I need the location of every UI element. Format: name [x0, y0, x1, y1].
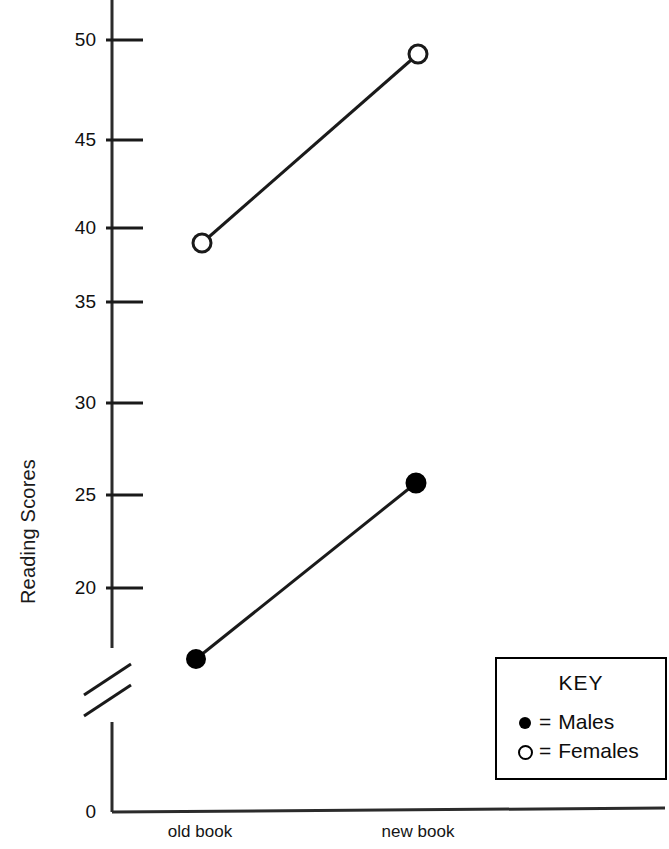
data-point-females-old-book [193, 234, 211, 252]
y-tick-label-20: 20 [38, 577, 96, 599]
legend-equals-females: = [539, 739, 551, 763]
series-females-line [202, 54, 418, 243]
legend-title: KEY [497, 671, 665, 695]
data-point-females-new-book [409, 45, 427, 63]
x-axis-line [112, 808, 665, 812]
series-males [187, 474, 426, 669]
y-axis-origin-label: 0 [38, 801, 96, 823]
legend-label-females: Females [558, 739, 639, 763]
y-tick-label-35: 35 [38, 291, 96, 313]
reading-scores-line-chart: Reading Scores 50 45 40 35 30 25 20 0 ol… [0, 0, 669, 849]
legend-entry-males: = Males [515, 710, 614, 734]
legend-key-box: KEY = Males = Females [495, 657, 667, 780]
axis-break-icon [84, 664, 131, 716]
legend-entry-females: = Females [515, 739, 639, 763]
x-axis-label-old-book: old book [130, 822, 270, 842]
y-tick-label-30: 30 [38, 392, 96, 414]
y-tick-label-45: 45 [38, 129, 96, 151]
filled-circle-icon [515, 712, 535, 732]
data-point-males-old-book [187, 650, 205, 668]
y-tick-label-40: 40 [38, 217, 96, 239]
data-point-males-new-book [407, 474, 426, 493]
series-males-line [196, 483, 416, 659]
y-tick-label-25: 25 [38, 484, 96, 506]
open-circle-icon [515, 741, 535, 761]
legend-label-males: Males [558, 710, 614, 734]
y-axis-title: Reading Scores [17, 442, 40, 622]
x-axis-label-new-book: new book [348, 822, 488, 842]
series-females [193, 45, 427, 252]
y-tick-label-50: 50 [38, 29, 96, 51]
legend-equals-males: = [539, 710, 551, 734]
